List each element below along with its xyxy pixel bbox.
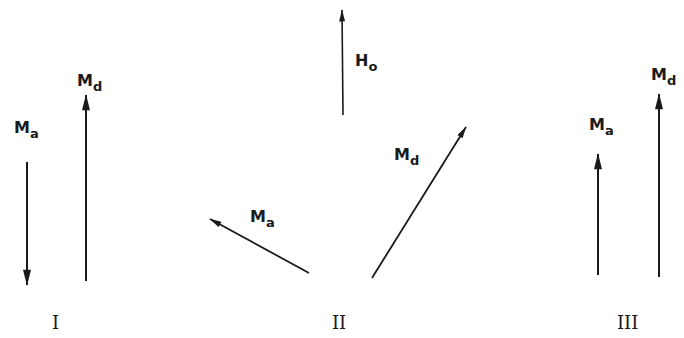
vector-label: M — [14, 118, 30, 137]
vector-label: M — [589, 115, 605, 134]
vector-subscript: d — [667, 73, 676, 88]
vector-label: M — [394, 145, 410, 164]
svg-text:Md: Md — [651, 65, 676, 88]
panel-i: Ma Md I — [14, 71, 102, 333]
panel-numeral: I — [52, 312, 59, 333]
vector-label: M — [651, 65, 667, 84]
vector-subscript: a — [30, 126, 39, 141]
vector-subscript: o — [368, 59, 377, 74]
vector-md-i: Md — [77, 71, 102, 281]
svg-text:Ma: Ma — [250, 207, 275, 230]
vector-md-ii: Md — [372, 127, 466, 278]
vector-label: H — [355, 51, 368, 70]
vector-md-iii: Md — [651, 65, 676, 277]
magnetization-vector-diagram: Ma Md I Ho Ma Md II — [0, 0, 684, 338]
vector-ho-ii: Ho — [342, 10, 377, 115]
vector-ma-ii: Ma — [210, 207, 309, 273]
vector-ma-i: Ma — [14, 118, 39, 285]
svg-text:Ma: Ma — [589, 115, 614, 138]
panel-ii: Ho Ma Md II — [210, 10, 466, 333]
svg-text:Md: Md — [77, 71, 102, 94]
svg-text:Md: Md — [394, 145, 419, 168]
vector-subscript: d — [93, 79, 102, 94]
panel-iii: Ma Md III — [589, 65, 676, 333]
vector-subscript: a — [605, 123, 614, 138]
vector-label: M — [77, 71, 93, 90]
vector-subscript: a — [266, 215, 275, 230]
panel-numeral: III — [617, 312, 638, 333]
arrow-up-right-icon — [372, 127, 466, 278]
vector-ma-iii: Ma — [589, 115, 614, 275]
arrow-up-left-icon — [210, 219, 309, 273]
vector-subscript: d — [410, 153, 419, 168]
svg-text:Ho: Ho — [355, 51, 377, 74]
vector-label: M — [250, 207, 266, 226]
panel-numeral: II — [332, 312, 346, 333]
svg-text:Ma: Ma — [14, 118, 39, 141]
arrow-up-icon — [342, 10, 343, 115]
